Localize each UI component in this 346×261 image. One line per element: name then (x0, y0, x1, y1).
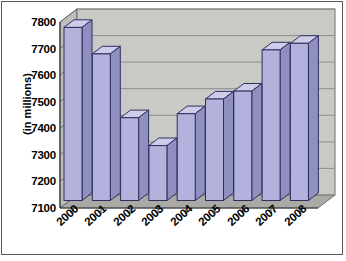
bar-2006[interactable] (234, 84, 262, 201)
y-axis-title: (in millions) (21, 49, 33, 159)
bar-2004[interactable] (177, 106, 205, 200)
bar-2001[interactable] (92, 46, 120, 200)
y-tick-label: 7800 (0, 16, 56, 28)
y-tick-label: 7100 (0, 202, 56, 214)
chart-screenshot: 7800 7700 7600 7500 7400 7300 7200 7100 … (0, 0, 346, 261)
bar-2002[interactable] (121, 110, 149, 200)
bar-2008[interactable] (290, 36, 318, 201)
bar-2003[interactable] (149, 138, 177, 201)
bar-2000[interactable] (64, 20, 92, 201)
bar-2005[interactable] (206, 91, 234, 200)
y-tick-label: 7200 (0, 175, 56, 187)
bar-chart: 7800 7700 7600 7500 7400 7300 7200 7100 … (0, 0, 346, 261)
bar-2007[interactable] (262, 42, 290, 200)
